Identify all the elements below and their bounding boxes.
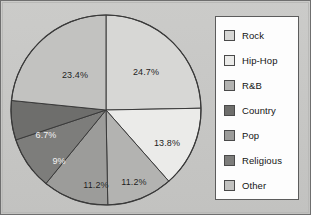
legend-color-swatch-icon xyxy=(224,180,235,191)
legend-item-label: Pop xyxy=(242,130,259,141)
legend-item: Religious xyxy=(224,148,298,173)
pie-plot-area: 24.7%13.8%11.2%11.2%9%6.7%23.4% xyxy=(9,13,204,208)
chart-legend: RockHip-HopR&BCountryPopReligiousOther xyxy=(215,16,299,200)
legend-item: R&B xyxy=(224,73,298,98)
pie-slice-data-label: 24.7% xyxy=(133,67,159,77)
pie-slice-data-label: 23.4% xyxy=(62,70,88,80)
pie-slice-data-label: 11.2% xyxy=(121,177,146,187)
legend-item: Pop xyxy=(224,123,298,148)
pie-slice-data-label: 13.8% xyxy=(154,138,180,148)
pie-svg xyxy=(9,13,204,208)
legend-item-label: Country xyxy=(242,105,276,116)
pie-slice xyxy=(106,15,201,110)
pie-slice-data-label: 9% xyxy=(52,156,65,166)
pie-slice-data-label: 6.7% xyxy=(36,130,57,140)
legend-item-label: R&B xyxy=(242,80,262,91)
legend-color-swatch-icon xyxy=(224,130,235,141)
legend-item-label: Religious xyxy=(242,155,282,166)
pie-slices-group xyxy=(11,15,201,205)
legend-color-swatch-icon xyxy=(224,80,235,91)
legend-item: Other xyxy=(224,173,298,198)
pie-slice xyxy=(11,15,106,110)
legend-color-swatch-icon xyxy=(224,155,235,166)
legend-item-label: Other xyxy=(242,180,266,191)
legend-color-swatch-icon xyxy=(224,30,235,41)
legend-item: Hip-Hop xyxy=(224,48,298,73)
legend-color-swatch-icon xyxy=(224,105,235,116)
legend-color-swatch-icon xyxy=(224,55,235,66)
legend-item: Country xyxy=(224,98,298,123)
pie-chart-figure: 24.7%13.8%11.2%11.2%9%6.7%23.4% RockHip-… xyxy=(0,0,311,215)
legend-item-label: Rock xyxy=(242,30,264,41)
legend-rows: RockHip-HopR&BCountryPopReligiousOther xyxy=(224,23,298,198)
legend-item-label: Hip-Hop xyxy=(242,55,278,66)
legend-item: Rock xyxy=(224,23,298,48)
pie-slice-data-label: 11.2% xyxy=(83,180,108,190)
